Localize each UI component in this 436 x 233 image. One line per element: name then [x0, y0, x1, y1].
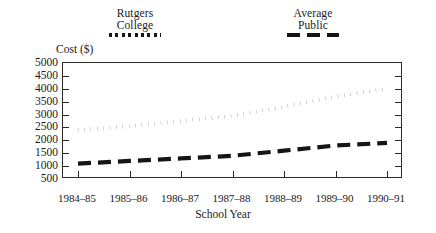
- x-tick-mark: [387, 171, 388, 177]
- y-tick-mark-right: [395, 166, 401, 167]
- series-line-average-public: [78, 143, 387, 164]
- legend-swatch-dotted-icon: [109, 33, 161, 36]
- y-tick-mark: [63, 102, 69, 103]
- y-tick-mark-right: [395, 140, 401, 141]
- x-tick-label: 1988–89: [264, 192, 302, 204]
- legend-label-public-line1: Average: [270, 8, 356, 20]
- x-tick-label: 1985–86: [110, 192, 148, 204]
- legend-label-rutgers-line1: Rutgers: [92, 8, 178, 20]
- y-tick-mark-right: [395, 115, 401, 116]
- y-tick-mark: [63, 140, 69, 141]
- y-tick-mark-right: [395, 89, 401, 90]
- plot-area-frame: [62, 62, 402, 178]
- legend-entry-average-public: Average Public: [270, 8, 356, 37]
- x-tick-label: 1986–87: [161, 192, 199, 204]
- y-tick-label: 1000: [22, 159, 58, 171]
- y-tick-mark: [63, 166, 69, 167]
- x-tick-mark: [336, 171, 337, 177]
- y-tick-mark-right: [395, 127, 401, 128]
- x-tick-label: 1984–85: [58, 192, 96, 204]
- x-tick-mark: [78, 171, 79, 177]
- legend-swatch-dashed-icon: [287, 33, 339, 37]
- x-tick-label: 1990–91: [367, 192, 405, 204]
- y-tick-label: 2000: [22, 133, 58, 145]
- y-axis-tick-labels: 500100015002000250030003500400045005000: [20, 62, 58, 178]
- x-axis-title: School Year: [0, 208, 436, 220]
- series-line-rutgers-college: [78, 89, 387, 130]
- y-tick-mark: [63, 76, 69, 77]
- series-lines: [63, 63, 403, 179]
- legend-label-rutgers-line2: College: [92, 20, 178, 32]
- y-tick-label: 1500: [22, 146, 58, 158]
- plot-area: [63, 63, 401, 177]
- y-tick-mark-right: [395, 76, 401, 77]
- y-tick-mark: [63, 89, 69, 90]
- legend-label-public-line2: Public: [270, 20, 356, 32]
- x-tick-label: 1989–90: [316, 192, 354, 204]
- y-tick-label: 500: [22, 172, 58, 184]
- y-tick-mark-right: [395, 102, 401, 103]
- y-tick-label: 5000: [22, 56, 58, 68]
- y-tick-mark: [63, 127, 69, 128]
- y-tick-label: 3500: [22, 95, 58, 107]
- x-tick-mark: [130, 171, 131, 177]
- y-tick-mark: [63, 153, 69, 154]
- x-tick-mark: [181, 171, 182, 177]
- y-tick-label: 3000: [22, 108, 58, 120]
- y-tick-label: 4500: [22, 69, 58, 81]
- x-tick-mark: [284, 171, 285, 177]
- x-tick-mark: [233, 171, 234, 177]
- cost-line-chart: Rutgers College Average Public Cost ($) …: [0, 0, 436, 233]
- y-tick-mark-right: [395, 153, 401, 154]
- y-tick-mark: [63, 115, 69, 116]
- legend-entry-rutgers-college: Rutgers College: [92, 8, 178, 37]
- x-tick-label: 1987–88: [213, 192, 251, 204]
- y-axis-title: Cost ($): [56, 43, 93, 55]
- x-axis-title-text: School Year: [195, 208, 251, 220]
- y-tick-label: 2500: [22, 120, 58, 132]
- y-tick-label: 4000: [22, 82, 58, 94]
